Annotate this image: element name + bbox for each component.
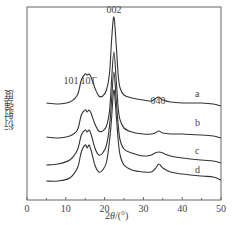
x-tick-label: 30 bbox=[138, 203, 148, 214]
curve-labels: abcd bbox=[195, 88, 200, 175]
x-axis-label: 2θ/(°) bbox=[105, 210, 128, 221]
curve-label-d: d bbox=[195, 164, 200, 175]
peak-label: 002 bbox=[107, 4, 122, 15]
peak-label: 101 bbox=[64, 75, 79, 86]
peak-label: 101̄ bbox=[81, 75, 98, 86]
x-tick-label: 10 bbox=[61, 203, 71, 214]
x-tick-label: 0 bbox=[25, 203, 30, 214]
xrd-chart: 01020304050 002101101̄040 abcd bbox=[0, 0, 232, 225]
x-tick-label: 40 bbox=[177, 203, 187, 214]
x-label-suffix: /(°) bbox=[115, 210, 128, 221]
curves bbox=[46, 17, 221, 181]
peak-label: 040 bbox=[151, 95, 166, 106]
x-tick-label: 50 bbox=[216, 203, 226, 214]
curve-label-c: c bbox=[195, 145, 200, 156]
curve-label-b: b bbox=[195, 117, 200, 128]
curve-label-a: a bbox=[195, 88, 200, 99]
y-axis-label: 衍射强度 bbox=[2, 90, 16, 130]
